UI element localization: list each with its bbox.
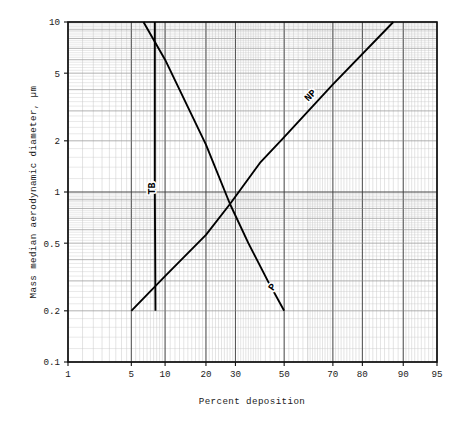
curve-tb bbox=[155, 22, 156, 311]
x-tick-label: 50 bbox=[279, 369, 290, 380]
x-tick-label: 95 bbox=[431, 369, 442, 380]
major-gridlines bbox=[68, 22, 437, 362]
x-axis-title: Percent deposition bbox=[199, 396, 305, 407]
figure-container: TBTBNPNPPP 151020305070809095 105210.50.… bbox=[0, 0, 465, 426]
x-tick-label: 30 bbox=[230, 369, 241, 380]
y-tick-label: 1 bbox=[54, 187, 60, 198]
y-tick-label: 10 bbox=[49, 17, 60, 28]
y-tick-label: 2 bbox=[54, 136, 60, 147]
y-tick-label: 0.5 bbox=[43, 239, 60, 250]
x-tick-label: 10 bbox=[160, 369, 171, 380]
curve-label-tb: TBTB bbox=[147, 182, 158, 194]
x-tick-label: 90 bbox=[398, 369, 409, 380]
y-axis-title: Mass median aerodynamic diameter, µm bbox=[28, 85, 39, 298]
x-tick-label: 1 bbox=[65, 369, 71, 380]
y-tick-label: 0.1 bbox=[43, 357, 60, 368]
y-tick-label: 0.2 bbox=[43, 306, 60, 317]
x-tick-label: 70 bbox=[327, 369, 338, 380]
x-tick-label: 5 bbox=[129, 369, 135, 380]
log-probability-chart: TBTBNPNPPP 151020305070809095 105210.50.… bbox=[0, 0, 465, 426]
y-axis-ticks bbox=[64, 22, 68, 362]
y-tick-label: 5 bbox=[54, 69, 60, 80]
x-tick-label: 80 bbox=[357, 369, 368, 380]
x-tick-label: 20 bbox=[200, 369, 211, 380]
curve-label-text: TB bbox=[147, 182, 158, 194]
